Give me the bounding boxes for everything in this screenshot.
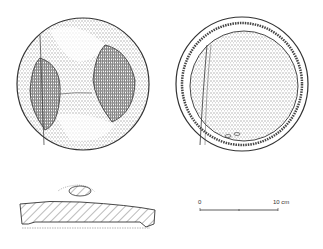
scale-bar [200,208,278,211]
bottom-view [176,17,308,151]
scale-start-label: 0 [198,199,201,205]
top-view [17,18,149,150]
archaeological-drawing [0,0,323,249]
section-view [20,185,155,228]
scale-end-label: 10 cm [273,199,289,205]
